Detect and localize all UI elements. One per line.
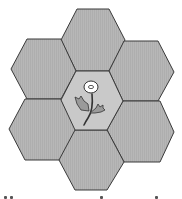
honeycomb-diagram [0, 0, 182, 199]
flower-core [88, 85, 93, 88]
cropped-caption-fragments [0, 195, 182, 199]
